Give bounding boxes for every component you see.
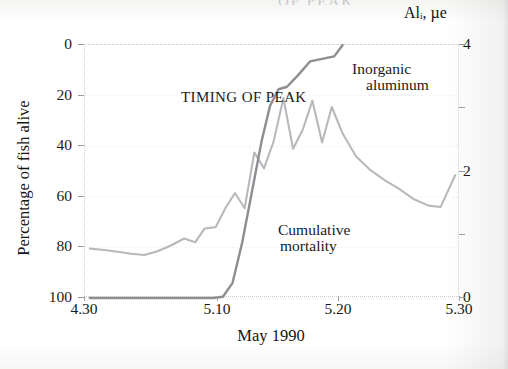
series-line-inorganic-aluminum: [90, 98, 455, 255]
y-axis-right-label: Alᵢ, µe: [404, 4, 447, 22]
x-tick-510: 5.10: [203, 300, 230, 318]
figure-chart: OF PEAK 0 20 40 60 80 100 Percentage of …: [0, 0, 508, 369]
y-axis-left-label: Percentage of fish alive: [14, 58, 34, 298]
annotation-timing-of-peak: TIMING OF PEAK: [181, 90, 307, 106]
x-tick-430: 4.30: [70, 300, 97, 318]
annotation-alum-line2: aluminum: [352, 77, 429, 93]
x-tickmark-530: [459, 296, 460, 301]
series-line-cumulative-mortality: [90, 45, 343, 298]
annotation-inorganic-aluminum: Inorganic aluminum: [352, 61, 429, 94]
x-tick-530: 5.30: [445, 300, 472, 318]
annotation-mort-line1: Cumulative: [278, 221, 350, 238]
x-tickmark-520: [338, 296, 339, 301]
x-tick-520: 5.20: [324, 300, 351, 318]
annotation-mort-line2: mortality: [278, 238, 350, 254]
cropped-title-remnant: OF PEAK: [236, 0, 396, 5]
x-tickmark-430: [84, 296, 85, 301]
x-tickmark-510: [217, 296, 218, 301]
annotation-cumulative-mortality: Cumulative mortality: [278, 222, 350, 255]
x-axis-label: May 1990: [0, 326, 508, 346]
annotation-alum-line1: Inorganic: [352, 60, 411, 77]
